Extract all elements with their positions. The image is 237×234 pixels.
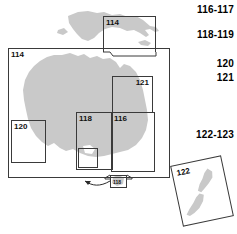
- index-box-116[interactable]: 116: [111, 112, 155, 172]
- index-box-label: 114: [106, 18, 119, 27]
- legend-entry-116-117[interactable]: 116-117: [197, 4, 234, 15]
- index-box-label: 118: [113, 179, 121, 185]
- index-box-label: 121: [136, 78, 149, 87]
- index-box-label: 116: [114, 114, 127, 123]
- index-box-label: 122: [176, 166, 191, 178]
- index-box-121[interactable]: 121: [112, 76, 153, 113]
- tasmania-callout-arrow: [85, 181, 110, 185]
- page-reference-legend: 116-117 118-119 120 121 122-123: [176, 0, 237, 160]
- index-box-inner-subregion[interactable]: [78, 148, 98, 168]
- legend-entry-122-123[interactable]: 122-123: [196, 129, 234, 140]
- legend-entry-118-119[interactable]: 118-119: [197, 29, 234, 40]
- legend-entry-121[interactable]: 121: [217, 72, 234, 83]
- index-box-label: 120: [14, 122, 27, 131]
- map-index-figure: 114 114 120 121 118 116 118 122 116-117 …: [0, 0, 237, 234]
- index-box-label: 118: [79, 114, 92, 123]
- index-box-118-tasmania-inset[interactable]: 118: [110, 175, 127, 188]
- legend-entry-120[interactable]: 120: [217, 58, 234, 69]
- index-box-label: 114: [11, 50, 24, 59]
- index-box-120[interactable]: 120: [11, 120, 46, 163]
- index-box-114-papua-new-guinea[interactable]: 114: [103, 16, 156, 52]
